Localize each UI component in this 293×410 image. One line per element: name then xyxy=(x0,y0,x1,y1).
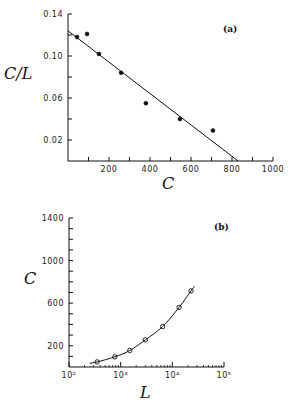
chart-b-y-ticks: 20060010001400 xyxy=(42,214,73,356)
chart-b-x-ticks: 10²10³10⁴10⁵ xyxy=(62,362,232,380)
figure: 0.020.060.100.14 2004006008001000 (a) C/… xyxy=(0,0,293,410)
chart-a-panel-label: (a) xyxy=(223,24,237,34)
chart-a-series xyxy=(68,31,238,161)
data-point xyxy=(144,101,148,105)
chart-b-panel-label: (b) xyxy=(214,222,229,232)
x-tick-label: 10⁵ xyxy=(217,371,232,380)
chart-b-x-axis-title: L xyxy=(139,383,151,402)
y-tick-label: 0.14 xyxy=(43,10,63,19)
x-tick-label: 400 xyxy=(142,165,159,174)
chart-b: 20060010001400 10²10³10⁴10⁵ (b) C L xyxy=(24,214,231,402)
x-tick-label: 10³ xyxy=(113,371,128,380)
y-tick-label: 0.02 xyxy=(43,136,63,145)
y-tick-label: 0.10 xyxy=(43,52,63,61)
data-point xyxy=(211,129,215,133)
chart-a-axes xyxy=(68,14,273,161)
x-tick-label: 10² xyxy=(62,371,77,380)
chart-a-x-axis-title: C xyxy=(162,174,174,193)
y-tick-label: 0.06 xyxy=(43,94,63,103)
y-tick-label: 1400 xyxy=(42,214,64,223)
x-tick-label: 10⁴ xyxy=(165,371,180,380)
chart-b-axes xyxy=(69,218,224,367)
fit-line xyxy=(68,31,238,161)
data-point xyxy=(85,32,89,36)
chart-a-x-ticks: 2004006008001000 xyxy=(89,157,285,174)
fit-line xyxy=(90,286,195,363)
x-tick-label: 1000 xyxy=(262,165,284,174)
x-tick-label: 200 xyxy=(101,165,118,174)
chart-a: 0.020.060.100.14 2004006008001000 (a) C/… xyxy=(4,10,284,193)
x-tick-label: 600 xyxy=(183,165,200,174)
y-tick-label: 1000 xyxy=(42,257,64,266)
y-tick-label: 600 xyxy=(47,299,64,308)
chart-b-y-axis-title: C xyxy=(24,269,36,288)
chart-a-y-axis-title: C/L xyxy=(4,64,32,83)
x-tick-label: 800 xyxy=(224,165,241,174)
chart-b-series xyxy=(90,286,195,364)
y-tick-label: 200 xyxy=(47,342,64,351)
